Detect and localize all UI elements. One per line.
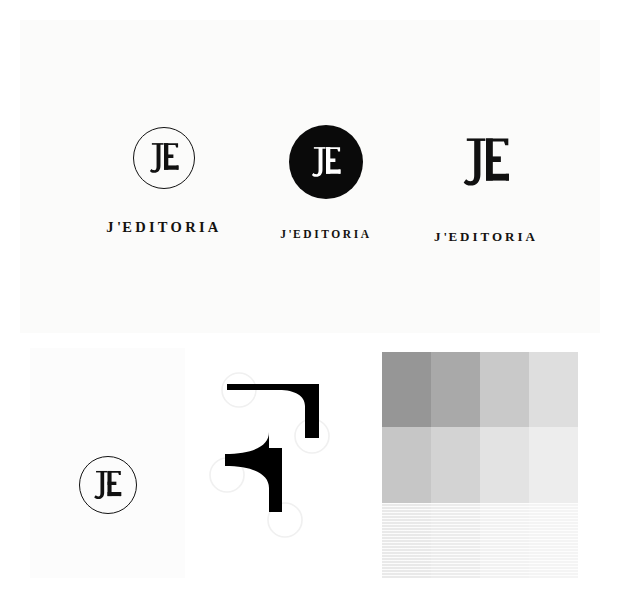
color-swatch[interactable]	[431, 352, 480, 427]
color-swatch[interactable]	[382, 503, 431, 578]
color-swatch[interactable]	[382, 352, 431, 427]
logo-lockup-row: J'EDITORIA	[20, 20, 600, 333]
color-swatch[interactable]	[529, 427, 578, 502]
wordmark-rest: EDITORIA	[293, 228, 372, 240]
je-monogram-plain-icon	[446, 122, 526, 202]
serif-bracket-detail-icon	[205, 362, 337, 542]
wordmark-j: J	[434, 229, 444, 244]
wordmark-j: J	[106, 219, 117, 235]
color-swatch[interactable]	[480, 427, 529, 502]
color-swatch[interactable]	[480, 352, 529, 427]
je-monogram-outline-circle-icon	[79, 456, 137, 514]
wordmark-j: J	[280, 228, 288, 240]
brand-identity-board: J'EDITORIA	[0, 0, 619, 603]
je-monogram-solid-circle-icon	[289, 125, 363, 199]
color-swatch[interactable]	[382, 427, 431, 502]
serif-anatomy-panel	[205, 362, 337, 542]
wordmark-text: J'EDITORIA	[434, 230, 538, 243]
logo-lockup-plain[interactable]: J'EDITORIA	[416, 122, 556, 243]
logo-lockup-outline[interactable]: J'EDITORIA	[94, 127, 234, 235]
color-swatch[interactable]	[529, 352, 578, 427]
logo-variants-panel: J'EDITORIA	[20, 20, 600, 333]
color-swatch[interactable]	[431, 427, 480, 502]
wordmark-text: J'EDITORIA	[280, 229, 372, 241]
color-swatch[interactable]	[529, 503, 578, 578]
monogram-card-panel	[30, 348, 185, 578]
wordmark-rest: EDITORIA	[122, 219, 221, 235]
logo-lockup-solid[interactable]: J'EDITORIA	[256, 125, 396, 241]
je-monogram-outline-circle-icon	[133, 127, 195, 189]
color-swatch[interactable]	[431, 503, 480, 578]
wordmark-text: J'EDITORIA	[106, 220, 221, 235]
wordmark-rest: EDITORIA	[448, 229, 538, 244]
color-swatch[interactable]	[480, 503, 529, 578]
color-palette-grid	[382, 352, 578, 578]
